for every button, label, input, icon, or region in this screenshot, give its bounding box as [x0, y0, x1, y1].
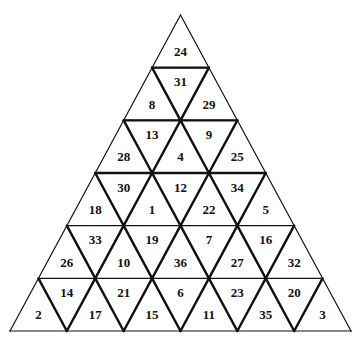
cell-number: 1 — [149, 202, 156, 217]
cell-number: 6 — [177, 285, 184, 300]
cell-number: 17 — [89, 307, 103, 322]
triangle-number-puzzle: 2483129281349251830112223452633101936727… — [0, 0, 359, 342]
cell-number: 5 — [263, 202, 270, 217]
cell-number: 34 — [231, 180, 245, 195]
cell-number: 19 — [146, 232, 160, 247]
cell-number: 20 — [288, 285, 301, 300]
cell-number: 7 — [206, 232, 213, 247]
cell-number: 32 — [288, 255, 301, 270]
cell-number: 15 — [146, 307, 160, 322]
cell-number: 9 — [206, 127, 213, 142]
cell-number: 11 — [203, 307, 215, 322]
cell-number: 25 — [231, 149, 245, 164]
cell-number: 12 — [174, 180, 187, 195]
cell-number: 30 — [117, 180, 130, 195]
cell-number: 18 — [89, 202, 103, 217]
cell-number: 8 — [149, 97, 156, 112]
cell-number: 29 — [202, 97, 216, 112]
cell-number: 22 — [202, 202, 215, 217]
cell-number: 21 — [117, 285, 130, 300]
cell-number: 28 — [117, 149, 131, 164]
cell-number: 35 — [259, 307, 273, 322]
cell-number: 2 — [35, 307, 42, 322]
cell-number: 26 — [60, 255, 74, 270]
cell-number: 24 — [174, 44, 188, 59]
cell-number: 3 — [319, 307, 326, 322]
cell-number: 33 — [89, 232, 103, 247]
cell-number: 36 — [174, 255, 188, 270]
cell-number: 13 — [146, 127, 160, 142]
cell-number: 10 — [117, 255, 130, 270]
cell-number: 16 — [259, 232, 273, 247]
cell-number: 27 — [231, 255, 245, 270]
upward-triangle-cell — [152, 15, 209, 68]
cell-number: 14 — [60, 285, 74, 300]
cell-number: 31 — [174, 74, 187, 89]
cell-number: 23 — [231, 285, 245, 300]
cell-number: 4 — [177, 149, 184, 164]
